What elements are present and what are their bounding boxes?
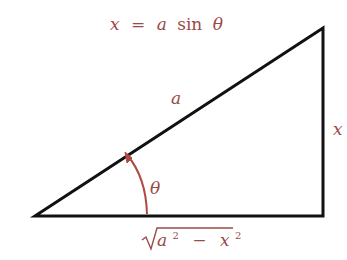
formula-equals: = [131, 14, 145, 34]
angle-label: θ [150, 178, 160, 198]
adjacent-a-exponent: 2 [173, 230, 179, 241]
triangle-diagram: x = a sin θ a x θ a 2 − x 2 [0, 0, 347, 260]
adjacent-a: a [157, 230, 167, 250]
formula-sin: sin [177, 14, 202, 34]
formula-a: a [157, 14, 167, 34]
adjacent-x-exponent: 2 [235, 230, 241, 241]
formula-x: x [110, 14, 120, 34]
angle-arc [125, 152, 147, 214]
adjacent-label: a 2 − x 2 [142, 223, 241, 250]
formula-theta: θ [213, 14, 223, 34]
opposite-label: x [333, 119, 343, 139]
formula-title: x = a sin θ [110, 14, 223, 34]
svg-text:x = a sin: x = a sin θ [110, 14, 223, 34]
adjacent-minus: − [192, 230, 206, 250]
right-triangle [35, 28, 323, 216]
adjacent-x: x [220, 230, 230, 250]
svg-text:a 2 − x: a 2 − x 2 [157, 223, 241, 250]
hypotenuse-label: a [171, 88, 181, 108]
